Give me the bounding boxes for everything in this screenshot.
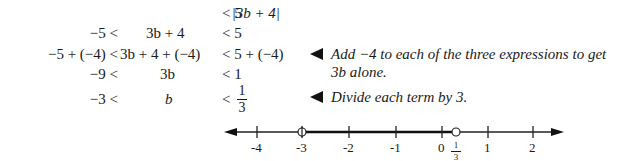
tick-label: 1 — [484, 141, 491, 154]
tick-label: 0 — [438, 141, 445, 154]
tick-label: -1 — [390, 141, 401, 154]
fraction-denominator: 3 — [451, 153, 461, 161]
fraction-numerator: 1 — [451, 141, 461, 150]
number-line — [0, 0, 628, 161]
open-endpoint-right — [452, 128, 460, 136]
tick-label: -3 — [296, 141, 307, 154]
left-arrowhead-icon — [224, 128, 237, 136]
right-arrowhead-icon — [551, 128, 564, 136]
tick-label: -4 — [251, 141, 262, 154]
tick-label: 2 — [529, 141, 536, 154]
tick-label: -2 — [343, 141, 354, 154]
tick-label-one-third: 1 3 — [451, 141, 461, 161]
